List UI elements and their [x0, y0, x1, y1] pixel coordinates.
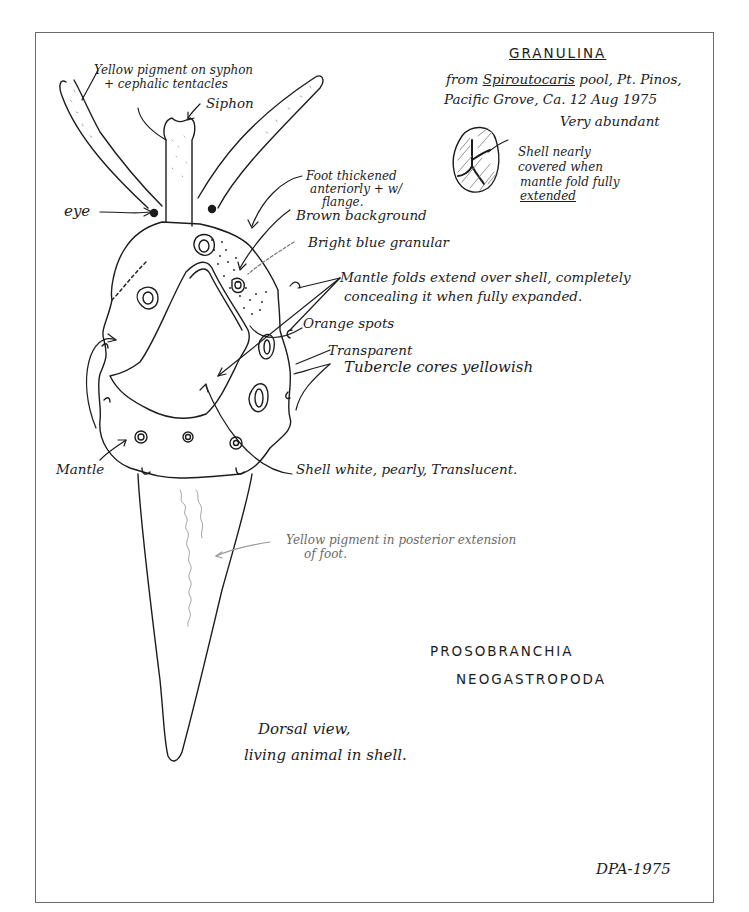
label-foot-thickened-1: Foot thickened	[306, 170, 397, 183]
gastropod-illustration	[0, 0, 749, 912]
caption-line-2: living animal in shell.	[244, 748, 407, 764]
label-yellow-pigment-foot-1: Yellow pigment in posterior extension	[286, 534, 516, 547]
label-mantle: Mantle	[56, 462, 104, 476]
label-yellow-pigment-siphon-2: + cephalic tentacles	[104, 78, 228, 91]
label-shell-description: Shell white, pearly, Translucent.	[296, 462, 517, 476]
genus-title: GRANULINA	[509, 46, 606, 60]
label-yellow-pigment-siphon-1: Yellow pigment on syphon	[94, 64, 253, 77]
taxonomy-suborder: NEOGASTROPODA	[456, 672, 606, 686]
label-tubercle-cores: Tubercle cores yellowish	[344, 360, 533, 376]
label-siphon: Siphon	[206, 96, 254, 110]
foot-tail	[138, 474, 252, 761]
collection-host: Spiroutocaris	[483, 71, 575, 87]
label-eye: eye	[64, 204, 90, 220]
siphon	[164, 118, 195, 226]
shell-inset-note-2: covered when	[518, 161, 603, 174]
collection-suffix: pool, Pt. Pinos,	[575, 71, 682, 87]
label-yellow-pigment-foot-2: of foot.	[304, 548, 347, 561]
annotation-leaders	[82, 70, 508, 558]
collection-line-1: from Spiroutocaris pool, Pt. Pinos,	[446, 72, 682, 86]
label-bright-blue-granular: Bright blue granular	[308, 235, 449, 249]
shell-inset-note-3: mantle fold fully	[520, 176, 619, 189]
artist-signature: DPA-1975	[596, 862, 671, 878]
collection-prefix: from	[446, 71, 483, 87]
eye-left-dot	[151, 210, 158, 217]
label-mantle-folds-1: Mantle folds extend over shell, complete…	[340, 270, 631, 284]
collection-line-2: Pacific Grove, Ca. 12 Aug 1975	[444, 92, 657, 106]
label-transparent: Transparent	[328, 343, 412, 357]
caption-line-1: Dorsal view,	[258, 722, 350, 738]
eye-right-dot	[209, 206, 216, 213]
shell-inset-note-1: Shell nearly	[518, 146, 591, 159]
left-tentacle	[60, 80, 162, 208]
label-brown-background: Brown background	[296, 208, 427, 222]
shell-inset-note-4: extended	[520, 190, 576, 203]
label-orange-spots: Orange spots	[303, 316, 394, 330]
shell-inset-sketch	[453, 127, 499, 192]
mantle-body	[99, 222, 292, 478]
label-mantle-folds-2: concealing it when fully expanded.	[344, 289, 582, 303]
label-foot-thickened-2: anteriorly + w/	[310, 183, 402, 196]
abundance-note: Very abundant	[560, 114, 660, 128]
taxonomy-order: PROSOBRANCHIA	[430, 644, 574, 658]
